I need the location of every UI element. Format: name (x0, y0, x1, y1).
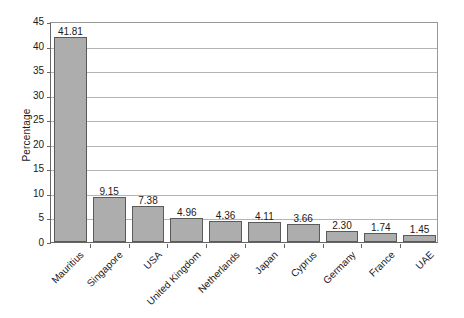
bar-value-label: 41.81 (48, 26, 93, 37)
y-axis-tick-label: 25 (20, 115, 44, 125)
gridline (51, 146, 437, 147)
y-axis-tick-mark (47, 170, 51, 171)
x-axis-category-label-text: UAE (413, 249, 435, 271)
y-axis-tick-mark (47, 48, 51, 49)
y-axis-tick-mark (47, 195, 51, 196)
y-axis-tick-label: 20 (20, 140, 44, 150)
bar (54, 37, 87, 242)
x-axis-category-label-text: Cyprus (289, 249, 319, 279)
x-axis-category-labels: MauritiusSingaporeUSAUnited KingdomNethe… (50, 249, 438, 318)
y-axis-tick-label: 40 (20, 42, 44, 52)
gridline (51, 97, 437, 98)
y-axis-tick-label: 45 (20, 17, 44, 27)
x-axis-category-label-text: Mauritius (50, 249, 86, 285)
y-axis-tick-labels: 051015202530354045 (20, 22, 44, 243)
y-axis-tick-label: 10 (20, 189, 44, 199)
y-axis-tick-label: 5 (20, 213, 44, 223)
gridline (51, 121, 437, 122)
y-axis-tick-mark (47, 97, 51, 98)
gridline (51, 72, 437, 73)
y-axis-tick-mark (47, 72, 51, 73)
gridline (51, 48, 437, 49)
x-axis-category-label-text: France (367, 249, 397, 279)
y-axis-tick-label: 30 (20, 91, 44, 101)
x-axis-category-label-text: Germany (321, 249, 358, 286)
bar-value-label: 7.38 (126, 195, 171, 206)
x-axis-category-label-text: Japan (253, 249, 280, 276)
y-axis-tick-mark (47, 121, 51, 122)
bar-chart-figure: Percentage 051015202530354045 41.819.157… (0, 0, 464, 318)
y-axis-tick-mark (47, 243, 51, 244)
x-axis-category-label-text: Singapore (85, 249, 125, 289)
y-axis-tick-mark (47, 146, 51, 147)
y-axis-tick-label: 15 (20, 164, 44, 174)
y-axis-tick-label: 0 (20, 238, 44, 248)
x-axis-category-label-text: USA (141, 249, 163, 271)
gridline (51, 170, 437, 171)
y-axis-tick-mark (47, 23, 51, 24)
y-axis-tick-mark (47, 219, 51, 220)
y-axis-tick-label: 35 (20, 66, 44, 76)
